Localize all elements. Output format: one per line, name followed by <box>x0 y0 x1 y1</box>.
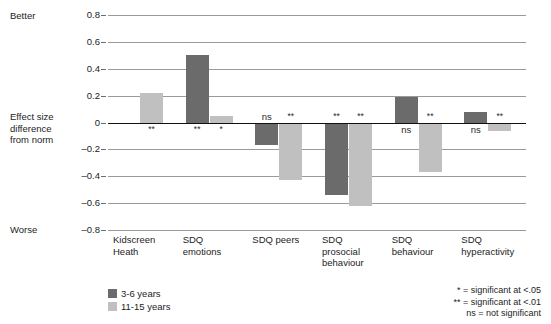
gridline <box>108 69 526 70</box>
plot-area: 0.80.60.40.20–0.2–0.4–0.6–0.8*****ns****… <box>108 15 526 230</box>
y-axis-tick-label: 0.8 <box>60 9 100 20</box>
footnote-line: ns = not significant <box>453 308 541 320</box>
significance-marker: ** <box>485 112 515 121</box>
y-axis-tick-label: –0.8 <box>60 224 100 235</box>
legend-label: 3-6 years <box>121 289 161 299</box>
better-axis-label: Better <box>10 10 35 22</box>
y-axis-tick-label: –0.2 <box>60 143 100 154</box>
y-axis-tick <box>101 230 106 231</box>
y-axis-tick <box>101 149 106 150</box>
gridline <box>108 96 526 97</box>
chart-root: Better Effect size difference from norm … <box>0 0 551 324</box>
significance-marker: ** <box>415 112 445 121</box>
significance-footnote: * = significant at <.05** = significant … <box>453 285 541 320</box>
y-axis-tick <box>101 69 106 70</box>
category-label: SDQ behaviour <box>392 234 472 257</box>
bar <box>419 123 442 173</box>
bar <box>325 123 348 196</box>
legend-swatch-icon <box>108 302 117 311</box>
bar <box>186 55 209 122</box>
bar <box>279 123 302 181</box>
legend-swatch-icon <box>108 289 117 298</box>
gridline <box>108 230 526 231</box>
category-label: SDQ prosocial behaviour <box>322 234 402 269</box>
y-axis-tick-label: 0.2 <box>60 90 100 101</box>
significance-marker: * <box>206 125 236 134</box>
zero-axis-line <box>108 123 526 125</box>
y-axis-tick <box>101 176 106 177</box>
footnote-line: * = significant at <.05 <box>453 285 541 297</box>
significance-marker: ** <box>137 125 167 134</box>
y-axis-title: Effect size difference from norm <box>10 111 54 146</box>
bar <box>255 123 278 146</box>
y-axis-tick <box>101 42 106 43</box>
category-label: SDQ peers <box>252 234 332 246</box>
bar <box>349 123 372 206</box>
legend-label: 11-15 years <box>121 302 170 312</box>
significance-marker: ns <box>391 125 421 134</box>
gridline <box>108 42 526 43</box>
y-axis-tick <box>101 15 106 16</box>
legend-item: 11-15 years <box>108 301 170 312</box>
bar <box>140 93 163 123</box>
category-label: SDQ hyperactivity <box>461 234 541 257</box>
category-label: SDQ emotions <box>183 234 263 257</box>
y-axis-tick <box>101 96 106 97</box>
y-axis-tick-label: 0 <box>60 117 100 128</box>
worse-axis-label: Worse <box>10 224 37 236</box>
significance-marker: ** <box>276 112 306 121</box>
gridline <box>108 176 526 177</box>
footnote-line: ** = significant at <.01 <box>453 297 541 309</box>
legend-item: 3-6 years <box>108 288 170 299</box>
gridline <box>108 15 526 16</box>
y-axis-tick-label: –0.4 <box>60 170 100 181</box>
y-axis-tick-label: 0.4 <box>60 63 100 74</box>
gridline <box>108 203 526 204</box>
y-axis-tick-label: –0.6 <box>60 197 100 208</box>
significance-marker: ns <box>461 125 491 134</box>
category-labels: Kidscreen HeathSDQ emotionsSDQ peersSDQ … <box>108 234 526 280</box>
y-axis-tick <box>101 203 106 204</box>
significance-marker: ** <box>346 112 376 121</box>
category-label: Kidscreen Heath <box>113 234 193 257</box>
y-axis-tick-label: 0.6 <box>60 36 100 47</box>
bar <box>210 116 233 123</box>
gridline <box>108 149 526 150</box>
chart-legend: 3-6 years11-15 years <box>108 288 170 314</box>
y-axis-tick <box>101 123 106 124</box>
